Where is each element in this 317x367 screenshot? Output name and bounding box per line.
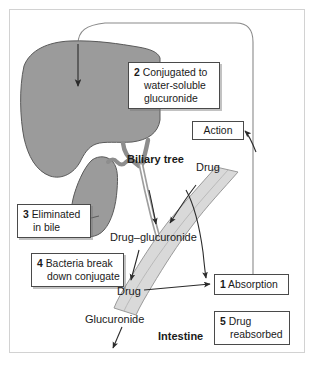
callout-3-line1: Eliminated (32, 209, 81, 220)
callout-2-number: 2 (134, 67, 140, 78)
callout-3-eliminated-in-bile[interactable]: 3 Eliminated in bile (17, 204, 91, 238)
label-intestine: Intestine (158, 330, 203, 343)
arrow-glucuronide-excreted (113, 327, 122, 348)
callout-4-bacteria-break-down[interactable]: 4 Bacteria break down conjugate (31, 253, 124, 287)
callout-5-line1: Drug (229, 316, 252, 327)
label-drug-top: Drug (196, 161, 220, 174)
callout-3-number: 3 (23, 209, 29, 220)
label-drug-mid: Drug (117, 285, 141, 298)
callout-5-drug-reabsorbed[interactable]: 5 Drug reabsorbed (214, 311, 290, 345)
label-glucuronide: Glucuronide (85, 313, 144, 326)
label-biliary-tree: Biliary tree (127, 153, 184, 166)
callout-1-number: 1 (220, 279, 226, 290)
callout-4-line1: Bacteria break (46, 258, 113, 269)
callout-2-conjugated[interactable]: 2 Conjugated to water-soluble glucuronid… (128, 62, 220, 109)
callout-2-line3: glucuronide (134, 92, 214, 105)
action-box[interactable]: Action (192, 121, 244, 140)
action-box-label: Action (204, 125, 233, 136)
callout-1-line1: Absorption (228, 279, 278, 290)
callout-5-number: 5 (220, 316, 226, 327)
figure-container: 2 Conjugated to water-soluble glucuronid… (0, 0, 317, 367)
callout-4-line2: down conjugate (37, 270, 118, 283)
callout-5-line2: reabsorbed (220, 328, 284, 341)
label-drug-glucuronide: Drug–glucuronide (110, 231, 197, 244)
callout-1-absorption[interactable]: 1 Absorption (214, 274, 289, 295)
callout-3-line2: in bile (23, 221, 85, 234)
callout-2-line2: water-soluble (134, 79, 214, 92)
arrow-loop-to-action (245, 131, 256, 152)
arrow-drug-to-absorption (144, 284, 210, 290)
callout-2-line1: Conjugated to (143, 67, 208, 78)
callout-4-number: 4 (37, 258, 43, 269)
